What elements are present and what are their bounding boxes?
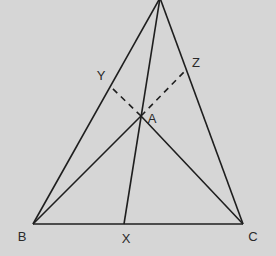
label-y: Y	[97, 69, 106, 82]
label-b: B	[18, 230, 27, 243]
segment-ay	[111, 87, 141, 116]
label-c: C	[248, 230, 257, 243]
geometry-diagram: Y Z A B X C	[0, 0, 276, 256]
segment-pc	[160, 0, 243, 224]
segment-ca	[141, 116, 243, 224]
segment-ba	[33, 116, 141, 224]
label-x: X	[122, 232, 131, 245]
label-z: Z	[192, 56, 200, 69]
triangle-figure	[0, 0, 276, 256]
label-a: A	[148, 112, 157, 125]
segment-pb	[33, 0, 160, 224]
